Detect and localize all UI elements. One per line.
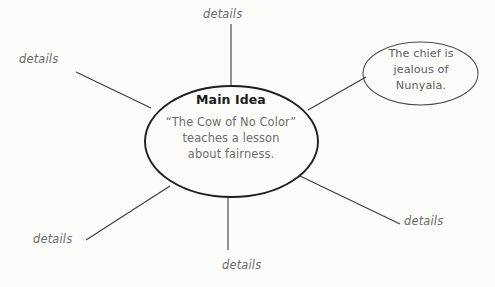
detail-label-top: details — [203, 7, 242, 21]
detail-label-lower-left: details — [33, 232, 72, 246]
connector-line-lower-right — [300, 176, 400, 224]
detail-label-lower-right: details — [404, 214, 443, 228]
graphic-organizer-canvas: Main Idea “The Cow of No Color” teaches … — [0, 0, 495, 287]
main-idea-ellipse — [145, 86, 318, 197]
detail-label-bottom: details — [222, 258, 261, 272]
connector-line-lower-left — [86, 186, 170, 240]
connector-lines-layer — [0, 0, 495, 287]
satellite-ellipse — [363, 42, 478, 105]
connector-line-upper-left — [76, 72, 151, 108]
connector-line-upper-right — [308, 77, 366, 110]
detail-label-upper-left: details — [19, 52, 58, 66]
